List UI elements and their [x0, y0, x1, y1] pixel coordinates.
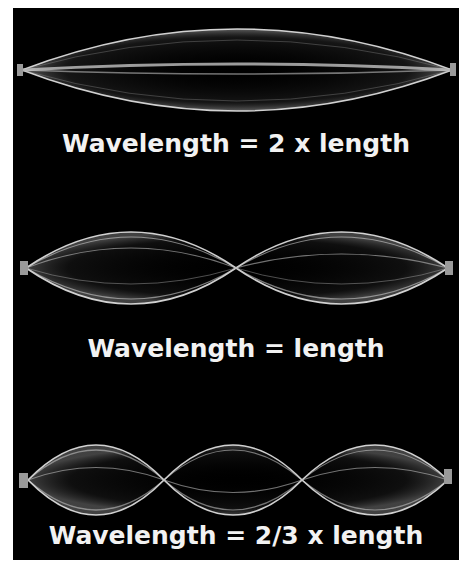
- fundamental-label: Wavelength = 2 x length: [13, 129, 459, 158]
- left-clamp-icon: [19, 473, 28, 488]
- second-harmonic-wave: [20, 232, 453, 304]
- third-harmonic-label: Wavelength = 2/3 x length: [13, 521, 459, 550]
- left-clamp-icon: [20, 261, 28, 275]
- right-clamp-icon: [445, 261, 453, 275]
- standing-waves-illustration: [0, 0, 461, 563]
- left-clamp-icon: [17, 64, 23, 76]
- fundamental-wave: [17, 29, 456, 111]
- third-harmonic-wave: [19, 445, 452, 515]
- right-clamp-icon: [444, 469, 452, 484]
- second-harmonic-label: Wavelength = length: [13, 334, 459, 363]
- right-clamp-icon: [450, 63, 456, 76]
